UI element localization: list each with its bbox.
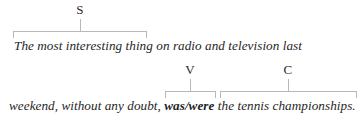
sentence-diagram-figure: S The most interesting thing on radio an… [0, 0, 364, 117]
constituent-bracket-s [13, 31, 147, 38]
constituent-label-c: C [276, 63, 300, 77]
sentence-line-1: The most interesting thing on radio and … [14, 38, 302, 54]
label-tick-v [190, 79, 191, 91]
sentence-line-2-part-1: weekend, without any doubt, [9, 98, 164, 113]
constituent-label-v: V [178, 63, 202, 77]
label-tick-s [80, 19, 81, 31]
label-tick-c [288, 79, 289, 91]
sentence-line-2-part-3: the tennis championships. [214, 98, 355, 113]
sentence-line-1-text: The most interesting thing on radio and … [14, 38, 302, 53]
constituent-label-s: S [68, 3, 92, 17]
constituent-bracket-v [165, 91, 216, 98]
constituent-bracket-c [220, 91, 357, 98]
sentence-line-2-verb-choice: was/were [164, 98, 214, 113]
sentence-line-2: weekend, without any doubt, was/were the… [9, 98, 356, 114]
